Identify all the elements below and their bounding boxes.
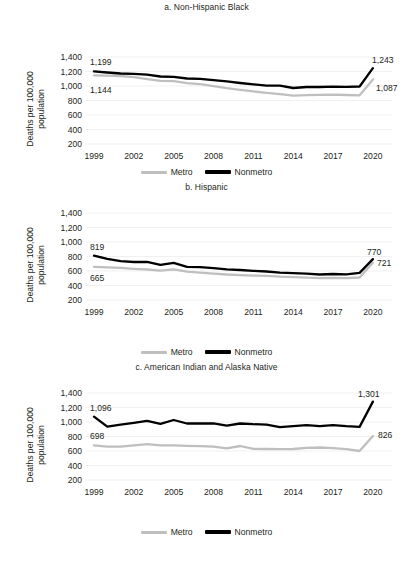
chart-c-legend-item-nonmetro[interactable]: Nonmetro xyxy=(205,527,273,537)
chart-a-xtick-labels: 1999 2002 2005 2008 2011 2014 2017 2020 xyxy=(84,151,382,161)
chart-a-xtick-1999: 1999 xyxy=(84,151,103,161)
chart-b-nonmetro-line xyxy=(94,256,373,275)
chart-a-label-nonmetro-end: 1,243 xyxy=(372,55,394,65)
chart-c-ytick-1200: 1,200 xyxy=(60,403,82,413)
chart-a-ylabel-line1: Deaths per 100,000 xyxy=(25,71,35,147)
chart-c-xtick-2005: 2005 xyxy=(164,487,183,497)
chart-a-xtick-2005: 2005 xyxy=(164,151,183,161)
chart-c-ytick-200: 200 xyxy=(68,475,83,485)
chart-b-gridlines xyxy=(86,213,392,300)
chart-b-ytick-600: 600 xyxy=(68,266,83,276)
chart-b-series-nonmetro xyxy=(94,256,373,275)
chart-b-legend-item-metro[interactable]: Metro xyxy=(141,347,193,357)
chart-b-ytick-800: 800 xyxy=(68,252,83,262)
chart-a-label-nonmetro-start: 1,199 xyxy=(90,57,112,67)
chart-c-ylabel-line1: Deaths per 100,000 xyxy=(25,407,35,483)
legend-line-swatch-metro-icon xyxy=(141,171,167,174)
chart-b-xtick-2002: 2002 xyxy=(124,307,143,317)
chart-a-label-metro-start: 1,144 xyxy=(90,85,112,95)
chart-c-ylabel-line2: population xyxy=(36,425,46,465)
chart-c-xtick-2002: 2002 xyxy=(124,487,143,497)
chart-b-y-axis-title: Deaths per 100,000 population xyxy=(25,227,46,303)
chart-b-label-metro-start: 665 xyxy=(90,273,105,283)
chart-c-label-metro-start: 698 xyxy=(90,431,105,441)
chart-b-svg: 1,400 1,200 1,000 800 600 400 200 Deaths… xyxy=(0,195,413,345)
figure-root: a. Non-Hispanic Black 1,400 1,200 1,000 … xyxy=(0,0,413,562)
chart-c-ytick-labels: 1,400 1,200 1,000 800 600 400 200 xyxy=(60,388,82,485)
chart-a-xtick-2014: 2014 xyxy=(284,151,303,161)
chart-a-legend-label-metro: Metro xyxy=(171,167,193,177)
chart-a-ytick-1200: 1,200 xyxy=(60,67,82,77)
chart-b-xtick-1999: 1999 xyxy=(84,307,103,317)
chart-a-xtick-2020: 2020 xyxy=(363,151,382,161)
chart-a-xtick-2011: 2011 xyxy=(244,151,263,161)
chart-c-data-labels: 1,096 698 1,301 826 xyxy=(90,389,393,441)
chart-c-series-metro xyxy=(94,436,373,451)
chart-c-title: c. American Indian and Alaska Native xyxy=(0,360,413,375)
chart-c-svg: 1,400 1,200 1,000 800 600 400 200 Deaths… xyxy=(0,375,413,525)
chart-c-xtick-1999: 1999 xyxy=(84,487,103,497)
chart-c-ytick-600: 600 xyxy=(68,446,83,456)
chart-b-ytick-400: 400 xyxy=(68,281,83,291)
chart-a-title: a. Non-Hispanic Black xyxy=(0,0,413,15)
chart-a-ytick-800: 800 xyxy=(68,96,83,106)
chart-c-ytick-800: 800 xyxy=(68,432,83,442)
chart-c-legend-item-metro[interactable]: Metro xyxy=(141,527,193,537)
chart-c-ytick-1400: 1,400 xyxy=(60,388,82,398)
chart-b-xtick-2014: 2014 xyxy=(284,307,303,317)
chart-a-metro-line xyxy=(94,75,373,95)
chart-b-xtick-2017: 2017 xyxy=(323,307,342,317)
chart-b-xtick-2008: 2008 xyxy=(204,307,223,317)
chart-a-ytick-1400: 1,400 xyxy=(60,52,82,62)
chart-a-ylabel-line2: population xyxy=(36,89,46,129)
legend-line-swatch-nonmetro-icon xyxy=(205,530,231,534)
legend-line-swatch-metro-icon xyxy=(141,351,167,354)
chart-c-nonmetro-line xyxy=(94,402,373,428)
chart-c-metro-line xyxy=(94,436,373,451)
chart-c-ytick-400: 400 xyxy=(68,461,83,471)
chart-b-label-nonmetro-end: 770 xyxy=(367,247,382,257)
chart-c-legend-label-metro: Metro xyxy=(171,527,193,537)
chart-c-label-nonmetro-start: 1,096 xyxy=(90,403,112,413)
chart-b-plot: 1,400 1,200 1,000 800 600 400 200 Deaths… xyxy=(0,195,413,345)
chart-b-label-metro-end: 721 xyxy=(377,258,392,268)
chart-a-gridlines xyxy=(86,57,392,144)
chart-c-legend-label-nonmetro: Nonmetro xyxy=(235,527,273,537)
chart-panel-c: c. American Indian and Alaska Native 1,4… xyxy=(0,360,413,540)
chart-c-xtick-labels: 1999 2002 2005 2008 2011 2014 2017 2020 xyxy=(84,487,382,497)
chart-a-legend-label-nonmetro: Nonmetro xyxy=(235,167,273,177)
legend-line-swatch-nonmetro-icon xyxy=(205,170,231,174)
chart-b-title: b. Hispanic xyxy=(0,180,413,195)
chart-b-ytick-1200: 1,200 xyxy=(60,223,82,233)
chart-c-ytick-1000: 1,000 xyxy=(60,417,82,427)
chart-a-ytick-1000: 1,000 xyxy=(60,81,82,91)
chart-b-legend-label-nonmetro: Nonmetro xyxy=(235,347,273,357)
chart-c-xtick-2014: 2014 xyxy=(284,487,303,497)
chart-c-gridlines xyxy=(86,393,392,480)
chart-a-ytick-400: 400 xyxy=(68,125,83,135)
chart-c-label-metro-end: 826 xyxy=(378,430,393,440)
chart-a-legend-item-nonmetro[interactable]: Nonmetro xyxy=(205,167,273,177)
chart-c-series-nonmetro xyxy=(94,402,373,428)
chart-a-ytick-200: 200 xyxy=(68,139,83,149)
chart-panel-b: b. Hispanic 1,400 1,200 1,000 800 xyxy=(0,180,413,360)
chart-b-legend: Metro Nonmetro xyxy=(0,344,413,360)
chart-c-xtick-2011: 2011 xyxy=(244,487,263,497)
chart-c-xtick-2020: 2020 xyxy=(363,487,382,497)
chart-a-legend-item-metro[interactable]: Metro xyxy=(141,167,193,177)
chart-c-label-nonmetro-end: 1,301 xyxy=(358,389,380,399)
chart-a-plot: 1,400 1,200 1,000 800 600 400 200 Deaths… xyxy=(0,15,413,165)
chart-b-ylabel-line1: Deaths per 100,000 xyxy=(25,227,35,303)
chart-b-label-nonmetro-start: 819 xyxy=(90,242,105,252)
chart-b-ytick-1000: 1,000 xyxy=(60,237,82,247)
chart-c-legend: Metro Nonmetro xyxy=(0,524,413,540)
chart-c-xtick-2017: 2017 xyxy=(323,487,342,497)
chart-a-xtick-2017: 2017 xyxy=(323,151,342,161)
legend-line-swatch-nonmetro-icon xyxy=(205,350,231,354)
chart-b-xtick-2011: 2011 xyxy=(244,307,263,317)
chart-b-ytick-labels: 1,400 1,200 1,000 800 600 400 200 xyxy=(60,208,82,305)
chart-b-legend-label-metro: Metro xyxy=(171,347,193,357)
chart-b-legend-item-nonmetro[interactable]: Nonmetro xyxy=(205,347,273,357)
chart-a-label-metro-end: 1,087 xyxy=(376,83,398,93)
chart-b-xtick-labels: 1999 2002 2005 2008 2011 2014 2017 2020 xyxy=(84,307,382,317)
